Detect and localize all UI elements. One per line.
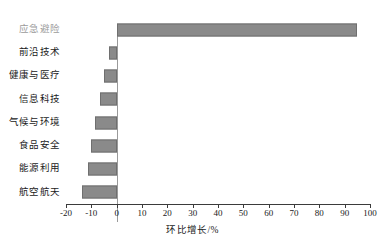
category-axis-labels: 应急避险前沿技术健康与医疗信息科技气候与环境食品安全能源利用航空航天 (0, 18, 60, 204)
bar-row (66, 134, 370, 157)
x-axis-tick-label: -10 (85, 209, 97, 218)
category-label: 健康与医疗 (0, 65, 60, 88)
bar-row (66, 88, 370, 111)
category-label: 航空航天 (0, 181, 60, 204)
bar-row (66, 181, 370, 204)
bar (95, 116, 117, 129)
bar (88, 163, 117, 176)
category-label: 信息科技 (0, 88, 60, 111)
x-axis-tick-label: 10 (138, 209, 147, 218)
bar-row (66, 41, 370, 64)
x-axis-tick-label: 0 (114, 209, 119, 218)
category-label: 食品安全 (0, 134, 60, 157)
x-axis-tick-label: 90 (340, 209, 349, 218)
x-axis-tick-label: 50 (239, 209, 248, 218)
x-axis-tick-label: 60 (264, 209, 273, 218)
plot-area (66, 18, 370, 204)
bar-chart: 应急避险前沿技术健康与医疗信息科技气候与环境食品安全能源利用航空航天 环比增长/… (0, 0, 385, 243)
x-axis-tick-label: 100 (363, 209, 377, 218)
x-axis-tick-label: 70 (290, 209, 299, 218)
bar (100, 93, 116, 106)
category-label: 气候与环境 (0, 111, 60, 134)
bar-row (66, 18, 370, 41)
bar-row (66, 158, 370, 181)
bar (91, 139, 116, 152)
bar (109, 46, 117, 59)
x-axis-tick-label: 80 (315, 209, 324, 218)
x-axis-tick-label: 20 (163, 209, 172, 218)
bar (104, 70, 117, 83)
bar (82, 186, 116, 199)
bar-row (66, 65, 370, 88)
x-axis-tick-label: -20 (60, 209, 72, 218)
x-axis-tick-label: 40 (214, 209, 223, 218)
x-axis-title: 环比增长/% (0, 226, 385, 236)
x-axis-tick-label: 30 (188, 209, 197, 218)
bar-row (66, 111, 370, 134)
category-label: 应急避险 (0, 18, 60, 41)
category-label: 能源利用 (0, 158, 60, 181)
bar (117, 23, 358, 36)
category-label: 前沿技术 (0, 41, 60, 64)
